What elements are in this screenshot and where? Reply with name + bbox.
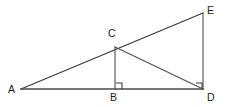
right-angle-at-B-icon (116, 83, 122, 89)
segment-AE (21, 13, 203, 89)
vertex-label-D: D (207, 92, 215, 103)
segment-CD (115, 47, 203, 89)
vertex-label-B: B (110, 92, 117, 103)
vertex-label-C: C (108, 28, 116, 39)
vertex-label-A: A (8, 84, 15, 95)
geometry-figure: A B C D E (0, 0, 225, 107)
vertex-label-E: E (207, 5, 214, 16)
